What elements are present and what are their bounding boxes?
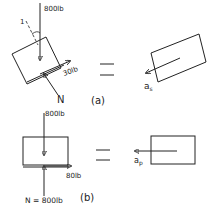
free-body-diagram: 800lb 1 30lb N (a) as 800lb 80lb N = 800… bbox=[0, 0, 220, 217]
angle-arc bbox=[32, 32, 40, 34]
normal-label-a: N bbox=[57, 94, 64, 105]
panel-b-fbd: 800lb 80lb N = 800lb (b) bbox=[23, 110, 94, 205]
friction-label-b: 80lb bbox=[66, 172, 82, 180]
angle-marker-a: 1 bbox=[20, 18, 24, 26]
accel-label-b: ap bbox=[134, 156, 143, 167]
weight-label-b: 800lb bbox=[45, 110, 65, 118]
block-b bbox=[23, 137, 68, 165]
panel-a-kinetic: as bbox=[144, 34, 206, 92]
accel-label-a: as bbox=[144, 81, 153, 92]
equals-sign-b bbox=[96, 150, 110, 160]
block-a bbox=[13, 30, 62, 55]
block-a-outline bbox=[12, 37, 61, 84]
block-a-kinetic bbox=[151, 34, 206, 82]
block-b-kinetic bbox=[151, 136, 195, 164]
caption-b: (b) bbox=[80, 192, 94, 203]
normal-direction-line bbox=[26, 21, 38, 45]
normal-arrow-a bbox=[44, 74, 58, 95]
caption-a: (a) bbox=[91, 95, 105, 106]
friction-label-a: 30lb bbox=[62, 65, 80, 78]
equals-sign-a bbox=[100, 64, 114, 75]
normal-label-b: N = 800lb bbox=[25, 196, 63, 205]
accel-arrow-a bbox=[146, 58, 180, 73]
panel-a-fbd: 800lb 1 30lb N (a) bbox=[12, 3, 105, 106]
weight-label-a: 800lb bbox=[44, 5, 64, 13]
panel-b-kinetic: ap bbox=[134, 136, 195, 167]
